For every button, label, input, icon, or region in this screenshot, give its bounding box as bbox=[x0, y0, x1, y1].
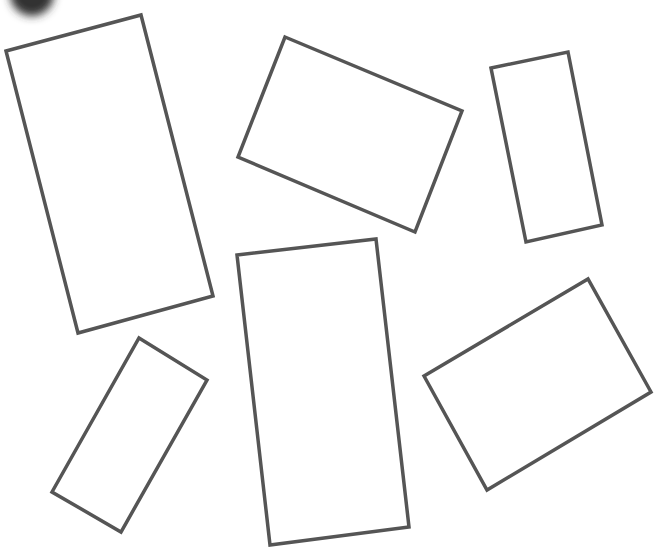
rotated-rectangle-4 bbox=[52, 338, 207, 532]
diagram-canvas bbox=[0, 0, 666, 560]
rectangles-group bbox=[6, 15, 651, 545]
rotated-rectangle-6 bbox=[424, 279, 651, 490]
rotated-rectangle-2 bbox=[238, 37, 462, 232]
rotated-rectangle-5 bbox=[237, 239, 409, 545]
rotated-rectangle-3 bbox=[491, 52, 602, 242]
dark-blob-partial bbox=[10, 0, 54, 16]
rotated-rectangle-1 bbox=[6, 15, 213, 333]
